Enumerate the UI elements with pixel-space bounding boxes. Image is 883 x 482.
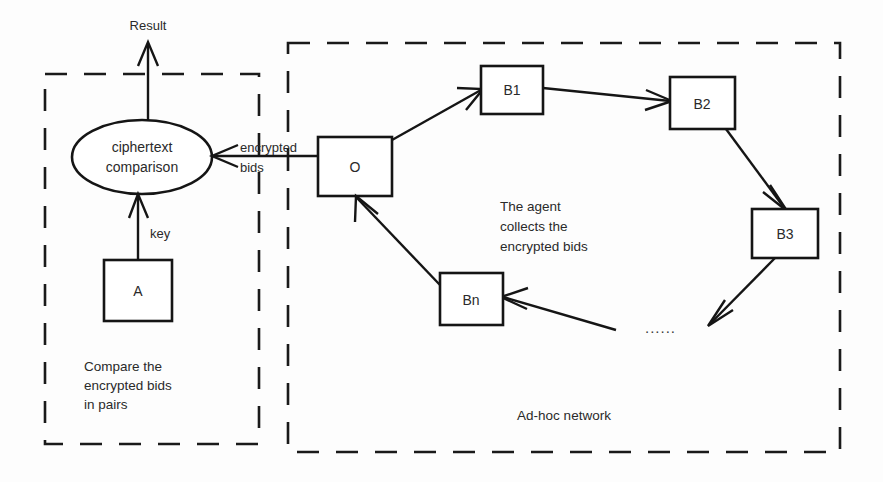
encrypted-bids-label-line1: encrypted: [240, 140, 297, 155]
agent-annotation-line1: The agent: [500, 199, 561, 214]
b3-to-next-edge-line: [710, 258, 775, 324]
result-label: Result: [130, 18, 167, 33]
comparison-zone-label-line2: encrypted bids: [84, 378, 172, 393]
node-o-label: O: [350, 159, 361, 175]
comparison-zone-label-line3: in pairs: [84, 397, 128, 412]
ciphertext-comparison-label-line2: comparison: [106, 159, 178, 175]
diagram-canvas: Result ciphertext comparison key A Compa…: [0, 0, 883, 482]
encrypted-bids-label-line2: bids: [240, 160, 264, 175]
agent-annotation-line2: collects the: [500, 219, 568, 234]
node-a-label: A: [133, 283, 143, 299]
node-b1-label: B1: [503, 82, 520, 98]
bn-to-o-edge-line: [357, 198, 440, 285]
b2-to-b3-edge-line: [726, 129, 785, 209]
ellipsis-label: ......: [645, 319, 676, 336]
node-b3-label: B3: [776, 226, 793, 242]
o-to-b1-edge-line: [392, 90, 481, 140]
b2-to-b3-arrowhead: [763, 185, 787, 211]
node-b2-label: B2: [693, 96, 710, 112]
comparison-zone-label-line1: Compare the: [84, 359, 162, 374]
prev-to-bn-arrowhead: [501, 288, 528, 309]
ciphertext-comparison-label-line1: ciphertext: [112, 139, 173, 155]
network-zone-label: Ad-hoc network: [517, 408, 611, 423]
ciphertext-comparison-node[interactable]: [72, 120, 212, 194]
prev-to-bn-edge-line: [503, 297, 616, 330]
key-label: key: [150, 226, 171, 241]
diagram-svg: Result ciphertext comparison key A Compa…: [0, 0, 883, 482]
agent-annotation-line3: encrypted bids: [500, 239, 588, 254]
b1-to-b2-edge-line: [543, 88, 670, 101]
node-bn-label: Bn: [462, 292, 479, 308]
